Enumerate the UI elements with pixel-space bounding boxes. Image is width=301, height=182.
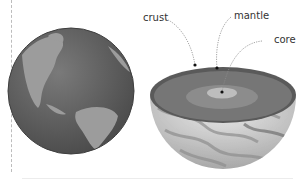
mantle-leader	[217, 17, 231, 68]
core-marker	[220, 90, 223, 93]
mantle-label: mantle	[234, 11, 269, 21]
globe	[8, 28, 134, 154]
mantle-marker	[215, 66, 218, 69]
earth-diagram	[0, 0, 301, 182]
crust-label: crust	[143, 13, 168, 23]
crust-leader	[166, 19, 195, 65]
globe-ocean	[8, 28, 134, 154]
crust-marker	[193, 63, 196, 66]
earth-cutaway	[150, 67, 296, 169]
core-label: core	[274, 35, 296, 45]
